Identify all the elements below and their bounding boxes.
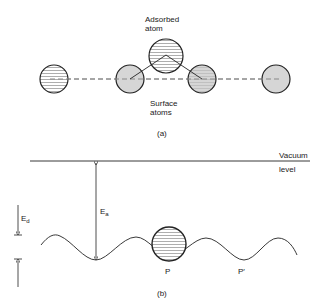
vacuum-label-line2: level [279, 165, 296, 174]
caption-a: (a) [157, 129, 167, 138]
adsorbed-atom [149, 39, 183, 73]
site-p-label: P [165, 267, 170, 276]
adatom-at-site-p [152, 227, 186, 261]
adsorbed-label-line1: Adsorbed [145, 15, 179, 24]
diagram-canvas: Adsorbed atom Surface atoms (a) Vacuum l… [0, 0, 318, 305]
adsorbed-label-line2: atom [145, 24, 163, 33]
surface-label-line1: Surface [150, 99, 178, 108]
vacuum-label-line1: Vacuum [279, 151, 308, 160]
surface-label-line2: atoms [150, 108, 172, 117]
ed-label: Ed [21, 214, 30, 224]
site-p-prime-label: P′ [238, 267, 245, 276]
caption-b: (b) [157, 289, 167, 298]
panel-a: Adsorbed atom Surface atoms (a) [40, 15, 290, 138]
ea-label: Ea [100, 207, 109, 217]
panel-b: Vacuum level Ea Ed P P′ (b) [14, 151, 310, 298]
